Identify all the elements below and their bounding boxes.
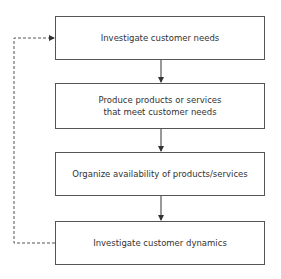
step-label: Investigate customer dynamics: [93, 237, 227, 249]
step-investigate-needs: Investigate customer needs: [55, 16, 265, 60]
step-investigate-dynamics: Investigate customer dynamics: [55, 221, 265, 265]
step-label: Produce products or services that meet c…: [96, 94, 224, 118]
step-label: Investigate customer needs: [101, 32, 220, 44]
step-organize-availability: Organize availability of products/servic…: [55, 152, 265, 196]
step-label: Organize availability of products/servic…: [72, 168, 247, 180]
step-produce-products: Produce products or services that meet c…: [55, 83, 265, 129]
feedback-loop-arrow: [14, 38, 55, 243]
